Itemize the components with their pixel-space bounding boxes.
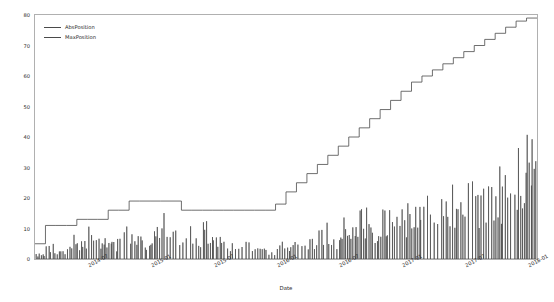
legend-item-maxposition: MaxPosition bbox=[44, 32, 134, 42]
y-tick-label: 20 bbox=[4, 195, 30, 201]
y-axis-tick-labels: 01020304050607080 bbox=[0, 14, 30, 260]
y-tick-label: 30 bbox=[4, 165, 30, 171]
chart-container: 01020304050607080 AbsPosition MaxPositio… bbox=[0, 0, 554, 302]
y-tick-label: 80 bbox=[4, 12, 30, 18]
legend-line-icon bbox=[44, 27, 61, 28]
y-tick-label: 70 bbox=[4, 43, 30, 49]
y-tick-label: 40 bbox=[4, 134, 30, 140]
legend-label-absposition: AbsPosition bbox=[65, 24, 95, 30]
chart-legend: AbsPosition MaxPosition bbox=[44, 22, 134, 44]
y-tick-label: 50 bbox=[4, 104, 30, 110]
series-line-maxposition bbox=[35, 18, 537, 244]
y-tick-label: 10 bbox=[4, 226, 30, 232]
legend-line-icon bbox=[44, 37, 61, 38]
legend-item-absposition: AbsPosition bbox=[44, 22, 134, 32]
x-axis-title: Date bbox=[34, 285, 538, 291]
legend-label-maxposition: MaxPosition bbox=[65, 34, 96, 40]
plot-area bbox=[34, 14, 538, 260]
y-tick-label: 60 bbox=[4, 73, 30, 79]
plot-svg bbox=[35, 15, 537, 259]
